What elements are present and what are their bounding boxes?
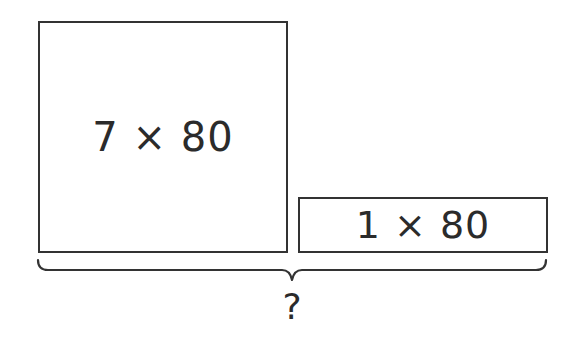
left-box-7x80: 7 × 80 <box>38 21 288 253</box>
right-box-label: 1 × 80 <box>356 203 491 247</box>
curly-brace-icon <box>36 258 552 288</box>
left-box-label: 7 × 80 <box>92 114 233 160</box>
right-box-1x80: 1 × 80 <box>298 197 548 253</box>
unknown-total-label: ? <box>276 286 308 327</box>
